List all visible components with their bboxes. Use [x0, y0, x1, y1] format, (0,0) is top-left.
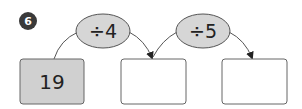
- operation-ellipse-2: ÷5: [176, 14, 230, 48]
- answer-box-2[interactable]: [222, 59, 287, 104]
- start-value-box: 19: [20, 59, 84, 104]
- operation-ellipse-1: ÷4: [76, 14, 130, 48]
- flow-diagram: 6 19 ÷4 ÷5: [0, 0, 302, 109]
- answer-box-1[interactable]: [121, 59, 186, 104]
- connector-line: [153, 32, 177, 57]
- operation-label-2: ÷5: [189, 20, 217, 42]
- start-value: 19: [39, 70, 64, 94]
- problem-number-badge: 6: [19, 12, 37, 30]
- operation-label-1: ÷4: [89, 20, 117, 42]
- connector-line: [54, 32, 78, 59]
- connector-arrow: [229, 32, 252, 58]
- problem-number: 6: [24, 15, 32, 28]
- connector-arrow: [129, 32, 152, 58]
